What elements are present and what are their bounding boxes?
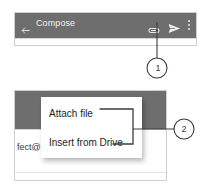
compose-body-strip (15, 38, 196, 46)
compose-screenshot-panel: Compose (14, 12, 197, 46)
menu-item-insert-from-drive[interactable]: Insert from Drive (49, 137, 123, 148)
callout-1-label: 1 (147, 63, 169, 73)
menu-item-attach-file[interactable]: Attach file (49, 108, 93, 119)
back-arrow-icon[interactable] (21, 21, 30, 30)
field-divider (15, 172, 166, 173)
recipient-field-text: fect@ (17, 142, 41, 152)
paperclip-icon[interactable] (148, 21, 160, 30)
overflow-menu-icon[interactable] (188, 20, 191, 31)
appbar-title: Compose (36, 18, 75, 28)
annotated-screenshot-figure: Compose fect@ (0, 0, 210, 195)
callout-2-label: 2 (173, 124, 195, 134)
send-paper-plane-icon[interactable] (168, 20, 181, 31)
attachment-menu: Attach file Insert from Drive (41, 97, 142, 158)
compose-appbar: Compose (15, 13, 196, 38)
